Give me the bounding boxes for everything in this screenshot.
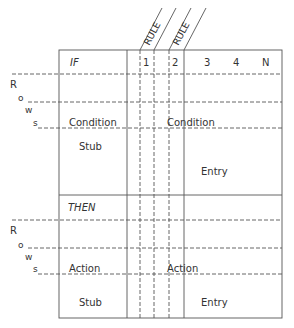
condition-rows-letter-r: R — [10, 80, 17, 90]
condition-rows-letter-w: w — [25, 106, 32, 115]
rule-number-n: N — [262, 58, 269, 68]
condition-rows-letter-s: s — [33, 119, 38, 128]
if-label: IF — [70, 58, 79, 68]
action-entry-label-2: Entry — [201, 298, 228, 308]
rule-number-2: 2 — [172, 58, 178, 68]
condition-entry-label-2: Entry — [201, 167, 228, 177]
rule-number-3: 3 — [204, 58, 210, 68]
action-rows-letter-o: o — [18, 241, 24, 250]
rule-number-4: 4 — [233, 58, 239, 68]
action-rows-letter-s: s — [33, 265, 38, 274]
condition-stub-label-2: Stub — [79, 142, 102, 152]
action-entry-label: Action — [167, 264, 198, 274]
action-rows-letter-w: w — [25, 253, 32, 262]
rule-number-1: 1 — [143, 58, 149, 68]
condition-rows-letter-o: o — [18, 94, 24, 103]
condition-entry-label: Condition — [167, 118, 215, 128]
decision-table-lines — [0, 0, 294, 328]
action-stub-label: Action — [69, 264, 100, 274]
action-stub-label-2: Stub — [79, 298, 102, 308]
then-label: THEN — [68, 203, 95, 213]
condition-stub-label: Condition — [69, 118, 117, 128]
action-rows-letter-r: R — [10, 226, 17, 236]
